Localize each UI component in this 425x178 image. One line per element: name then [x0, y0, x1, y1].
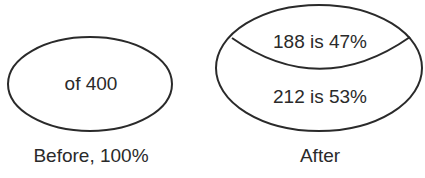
after-top-segment-label: 188 is 47% — [273, 31, 367, 53]
before-caption: Before, 100% — [33, 145, 148, 167]
after-bottom-segment-label: 212 is 53% — [273, 86, 367, 108]
before-inner-label: of 400 — [65, 73, 118, 95]
after-caption: After — [300, 145, 340, 167]
